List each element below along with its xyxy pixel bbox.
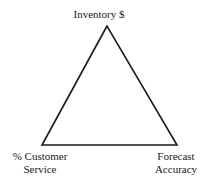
forecast-accuracy-label-line2: Accuracy (146, 163, 206, 176)
vertex-label-customer-service: % Customer Service (4, 150, 76, 176)
inventory-label-text: Inventory $ (68, 8, 130, 21)
forecast-accuracy-label-line1: Forecast (146, 150, 206, 163)
tradeoff-triangle-diagram: Inventory $ % Customer Service Forecast … (0, 0, 207, 183)
vertex-label-forecast-accuracy: Forecast Accuracy (146, 150, 206, 176)
customer-service-label-line1: % Customer (4, 150, 76, 163)
customer-service-label-line2: Service (4, 163, 76, 176)
vertex-label-inventory: Inventory $ (68, 8, 130, 21)
